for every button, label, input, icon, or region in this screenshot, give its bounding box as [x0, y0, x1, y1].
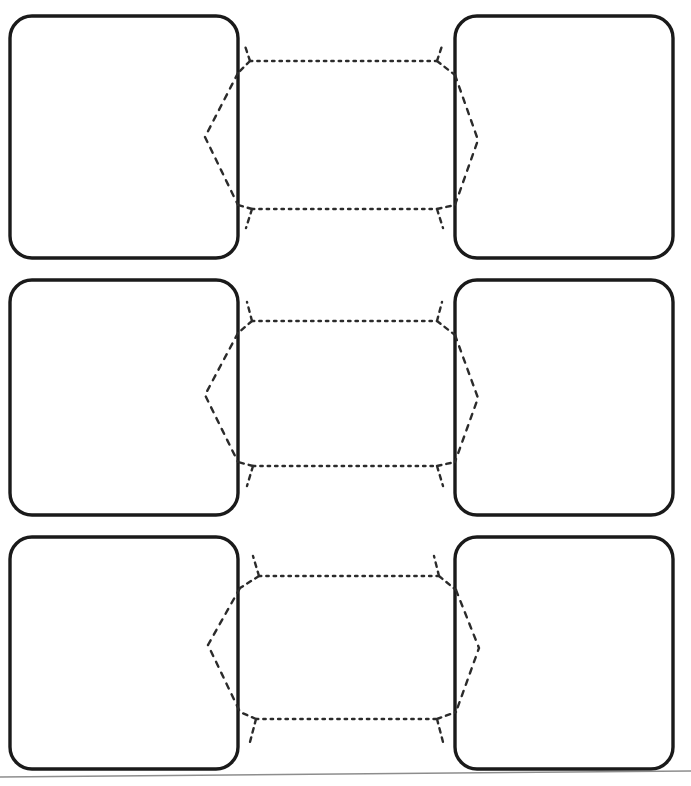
diagram-row-3: [10, 537, 673, 769]
diagram-canvas: [0, 0, 691, 786]
box-row2-right[interactable]: [455, 280, 673, 515]
arrowhead-row3-top-right: [434, 556, 456, 590]
arrowhead-row1-top-right: [437, 43, 455, 75]
diagram-row-2: [10, 280, 673, 515]
box-row1-right[interactable]: [455, 16, 673, 258]
diagram-row-1: [10, 16, 673, 258]
arrowhead-row2-top-left: [238, 302, 252, 333]
arrowhead-row3-top-left: [240, 556, 259, 588]
arrowhead-row2-bottom-left: [238, 462, 253, 486]
arrowhead-row1-bottom-right: [437, 205, 455, 228]
arrowhead-row2-top-right: [437, 302, 455, 335]
arrowhead-row2-bottom-right: [437, 462, 455, 486]
arrowhead-row3-bottom-right: [437, 712, 456, 742]
footer-rule: [0, 771, 691, 777]
arrowhead-row1-top-left: [238, 43, 250, 73]
arrowhead-row1-bottom-left: [238, 205, 252, 228]
box-row3-right[interactable]: [455, 537, 673, 769]
box-row3-left[interactable]: [10, 537, 238, 769]
arrowhead-row3-bottom-left: [240, 712, 256, 742]
diagram-page: [0, 0, 691, 786]
box-row2-left[interactable]: [10, 280, 238, 515]
